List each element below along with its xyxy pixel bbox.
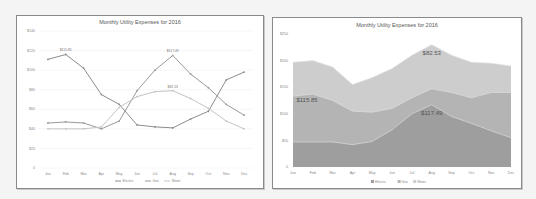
data-point <box>172 90 174 92</box>
x-tick-label: Sep <box>448 171 454 175</box>
x-tick-label: Oct <box>469 171 475 175</box>
data-point <box>208 107 210 109</box>
y-tick-label: 0 <box>33 166 35 170</box>
x-tick-label: Jul <box>410 171 415 175</box>
x-tick-label: Dec <box>508 171 515 175</box>
data-point <box>65 128 67 130</box>
data-point <box>101 94 103 96</box>
data-point <box>65 54 67 56</box>
data-point <box>47 128 49 130</box>
y-tick-label: $250 <box>280 32 288 36</box>
data-point <box>83 128 85 130</box>
data-point <box>47 58 49 60</box>
x-tick-label: Aug <box>429 171 435 175</box>
series-line-gas <box>48 55 244 128</box>
data-point <box>154 91 156 93</box>
y-tick-label: $40 <box>29 127 35 131</box>
data-point <box>136 124 138 126</box>
data-label: $82.53 <box>423 50 442 56</box>
chart-title: Monthly Utility Expenses for 2016 <box>356 22 438 28</box>
data-point <box>225 120 227 122</box>
data-point <box>243 114 245 116</box>
legend-swatch <box>398 180 401 183</box>
data-point <box>83 122 85 124</box>
chart-title: Monthly Utility Expenses for 2016 <box>99 19 181 25</box>
y-tick-label: $200 <box>280 59 288 63</box>
x-tick-label: Apr <box>99 172 105 176</box>
data-label: $117.49 <box>167 49 179 53</box>
x-tick-label: Aug <box>170 172 176 176</box>
data-point <box>154 126 156 128</box>
x-tick-label: Mar <box>330 171 337 175</box>
data-point <box>190 73 192 75</box>
data-point <box>172 127 174 129</box>
line-chart: Monthly Utility Expenses for 2016$140$12… <box>17 16 263 188</box>
data-point <box>243 128 245 130</box>
x-tick-label: Jan <box>45 172 51 176</box>
data-point <box>136 90 138 92</box>
legend-label: Water <box>172 179 182 183</box>
data-point <box>118 106 120 108</box>
stacked-area-chart: Monthly Utility Expenses for 2016$250$20… <box>273 18 521 188</box>
x-tick-label: Nov <box>223 172 230 176</box>
data-point <box>225 79 227 81</box>
data-point <box>208 87 210 89</box>
legend-label: Electric <box>123 179 134 183</box>
y-tick-label: $140 <box>27 29 35 33</box>
data-point <box>83 67 85 69</box>
legend-label: Gas <box>402 180 409 184</box>
x-tick-label: Dec <box>241 172 248 176</box>
x-tick-label: Jan <box>290 171 296 175</box>
y-tick-label: $50 <box>282 139 288 143</box>
data-label: $115.85 <box>296 97 318 103</box>
x-tick-label: May <box>116 172 123 176</box>
x-tick-label: Jun <box>134 172 140 176</box>
data-point <box>172 55 174 57</box>
data-point <box>101 128 103 130</box>
data-point <box>136 96 138 98</box>
x-tick-label: Oct <box>206 172 212 176</box>
x-tick-label: Feb <box>310 171 316 175</box>
data-point <box>65 121 67 123</box>
x-tick-label: Jul <box>153 172 158 176</box>
data-point <box>208 110 210 112</box>
x-tick-label: Jun <box>389 171 395 175</box>
series-line-electric <box>48 54 244 127</box>
legend-label: Electric <box>375 180 386 184</box>
data-label: $115.85 <box>60 48 72 52</box>
x-tick-label: Feb <box>63 172 69 176</box>
data-point <box>225 103 227 105</box>
data-point <box>190 118 192 120</box>
data-point <box>118 103 120 105</box>
x-tick-label: Mar <box>80 172 87 176</box>
data-label: $82.53 <box>168 85 178 89</box>
data-label: $117.49 <box>421 110 443 116</box>
legend-label: Water <box>417 180 427 184</box>
y-tick-label: $60 <box>29 107 35 111</box>
x-tick-label: Apr <box>350 171 356 175</box>
stacked-area-chart-panel: Monthly Utility Expenses for 2016$250$20… <box>272 17 522 189</box>
y-tick-label: $120 <box>27 49 35 53</box>
data-point <box>243 71 245 73</box>
data-point <box>47 122 49 124</box>
data-point <box>190 98 192 100</box>
x-tick-label: May <box>369 171 376 175</box>
data-point <box>101 126 103 128</box>
y-tick-label: $150 <box>280 85 288 89</box>
data-point <box>118 120 120 122</box>
data-point <box>154 69 156 71</box>
y-tick-label: $100 <box>27 68 35 72</box>
y-tick-label: 0 <box>286 165 288 169</box>
line-chart-panel: Monthly Utility Expenses for 2016$140$12… <box>16 15 264 189</box>
y-tick-label: $100 <box>280 112 288 116</box>
y-tick-label: $80 <box>29 88 35 92</box>
x-tick-label: Nov <box>488 171 495 175</box>
legend-label: Gas <box>153 179 160 183</box>
x-tick-label: Sep <box>187 172 193 176</box>
y-tick-label: $20 <box>29 147 35 151</box>
legend-swatch <box>371 180 374 183</box>
legend-swatch <box>413 180 416 183</box>
